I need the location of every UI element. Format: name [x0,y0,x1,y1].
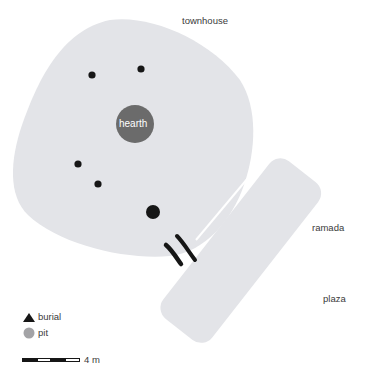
legend-burial-label: burial [38,311,61,322]
posthole-3 [74,160,81,167]
triangle-icon [23,313,35,322]
posthole-large [146,205,160,219]
posthole-2 [137,65,144,72]
hearth-label: hearth [119,118,147,129]
posthole-4 [94,180,101,187]
townhouse-label: townhouse [182,15,228,26]
legend-item-pit: pit [38,327,48,338]
legend-pit-label: pit [38,327,48,338]
scale-bar-label: 4 m [84,354,100,365]
circle-icon [24,328,35,339]
site-plan [0,0,368,382]
posthole-1 [88,71,95,78]
plaza-label: plaza [323,293,346,304]
scale-bar-graphic [22,358,80,362]
ramada-label: ramada [312,222,344,233]
legend-item-burial: burial [38,311,61,322]
